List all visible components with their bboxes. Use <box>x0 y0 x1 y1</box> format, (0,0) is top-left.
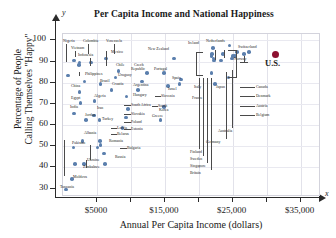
data-point <box>98 139 102 143</box>
leader-line-horizontal <box>124 122 131 123</box>
point-label-bulgaria: Bulgaria <box>127 146 140 150</box>
point-label-colombia: Colombia <box>83 39 98 43</box>
point-label-denmark: Denmark <box>256 94 270 98</box>
vertical-gridline <box>97 34 98 195</box>
point-label-poland: Poland <box>131 120 142 124</box>
x-tick <box>300 197 301 202</box>
x-tick <box>130 197 131 202</box>
point-label-france: France <box>192 96 203 100</box>
data-point <box>172 57 176 61</box>
y-tick-label: 100 <box>24 33 46 43</box>
data-point <box>210 52 214 56</box>
leader-line-vertical <box>75 51 76 57</box>
point-label-indonesia: Indonesia <box>78 53 93 57</box>
point-label-egypt: Egypt <box>71 96 80 100</box>
leader-line-vertical <box>64 140 65 176</box>
point-label-ukraine: Ukraine <box>87 158 100 162</box>
leader-line-vertical <box>106 51 107 66</box>
cluster-bracket <box>196 52 203 76</box>
point-label-canada: Canada <box>256 85 268 89</box>
point-label-chile: Chile <box>116 63 124 67</box>
x-tick <box>164 197 165 202</box>
horizontal-gridline <box>63 125 319 126</box>
leader-line-horizontal <box>111 134 117 135</box>
x-tick-label: $35,000 <box>270 205 330 215</box>
leader-line-horizontal <box>124 105 131 106</box>
data-point <box>77 63 81 67</box>
y-tick <box>50 145 56 146</box>
y-tick-label: 80 <box>26 76 48 86</box>
point-label-algeria: Algeria <box>94 94 106 98</box>
point-label-slovakia: Slovakia <box>131 112 145 116</box>
y-tick <box>50 39 56 40</box>
leader-line-horizontal <box>155 96 161 97</box>
data-point <box>103 162 107 166</box>
data-point <box>210 71 214 75</box>
point-label-sweden: Sweden <box>190 157 202 161</box>
leader-line-horizontal <box>111 128 117 129</box>
point-label-pakistan: Pakistan <box>72 141 85 145</box>
y-tick-label: 50 <box>26 139 48 149</box>
data-point <box>159 118 163 122</box>
y-tick <box>50 124 56 125</box>
x-axis-line <box>55 197 320 198</box>
point-label-turkey: Turkey <box>102 117 113 121</box>
x-tick-label: $25,000 <box>202 205 262 215</box>
data-point <box>79 101 83 105</box>
cluster-bracket-right <box>228 50 237 78</box>
x-axis-title: Annual Per Capita Income (dollars) <box>56 219 326 230</box>
leader-line-horizontal <box>240 96 255 97</box>
y-tick <box>50 188 56 189</box>
y-tick <box>50 103 56 104</box>
data-point <box>178 82 182 86</box>
data-point <box>96 146 100 150</box>
scatter-chart-figure: Per Capita Income and National Happiness… <box>0 0 336 238</box>
y-tick <box>50 61 56 62</box>
point-label-mexico: Mexico <box>111 50 123 54</box>
point-label-finland: Finland <box>190 150 202 154</box>
data-point <box>247 50 251 54</box>
leader-line-vertical <box>114 44 115 54</box>
point-label-singapore: Singapore <box>190 164 206 168</box>
point-label-albania: Albania <box>84 131 96 135</box>
leader-line-horizontal <box>152 106 158 107</box>
x-tick <box>266 197 267 202</box>
leader-line-horizontal <box>240 62 248 63</box>
data-point <box>211 46 215 50</box>
data-point <box>219 59 223 63</box>
leader-line-horizontal <box>240 115 255 116</box>
point-label-netherlands: Netherlands <box>206 39 225 43</box>
point-label-estonia: Estonia <box>131 127 143 131</box>
point-label-south-africa: South Africa <box>131 103 151 107</box>
y-tick-label: 60 <box>26 118 48 128</box>
leader-line-vertical <box>199 78 200 149</box>
point-label-britain: Britain <box>190 171 201 175</box>
y-axis-arrow <box>52 14 60 21</box>
leader-line-vertical <box>226 72 227 139</box>
data-point <box>162 71 166 75</box>
point-label-czech-republic2: Republic <box>131 67 145 71</box>
leader-line-vertical <box>215 50 216 60</box>
data-point <box>73 162 77 166</box>
data-point <box>126 107 130 111</box>
point-label-japan: Japan <box>216 85 225 89</box>
vertical-gridline <box>301 34 302 195</box>
data-point <box>84 118 88 122</box>
point-label-tanzania: Tanzania <box>60 185 74 189</box>
point-label-slovenia: Slovenia <box>161 94 175 98</box>
point-label-israel: Israel <box>168 87 177 91</box>
leader-line-vertical <box>90 58 91 66</box>
point-label-hungary: Hungary <box>133 93 147 97</box>
data-point-highlight <box>272 51 279 58</box>
leader-line-vertical <box>79 72 80 76</box>
y-tick-label: 30 <box>26 182 48 192</box>
leader-line-vertical <box>203 78 204 156</box>
vertical-gridline <box>165 34 166 195</box>
leader-line-vertical <box>232 70 233 128</box>
y-axis-line <box>55 20 56 198</box>
y-tick-label: 40 <box>26 160 48 170</box>
data-point <box>98 118 102 122</box>
y-axis-letter: y <box>62 8 66 17</box>
point-label-new-zealand: New Zealand <box>148 47 169 51</box>
point-label-portugal: Portugal <box>154 67 167 71</box>
